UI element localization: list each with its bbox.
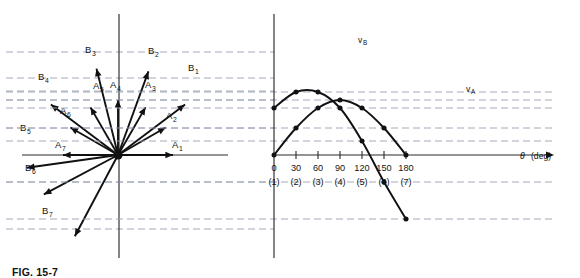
x-tick-label-150: 150 [376, 163, 391, 173]
data-point-v-a-2 [293, 126, 298, 131]
x-axis-unit-label: (deg) [531, 151, 551, 161]
data-point-v-a-5 [359, 106, 364, 111]
x-tick-label-60: 60 [313, 163, 323, 173]
point-number-7: (7) [400, 177, 411, 187]
data-point-v-b-1 [272, 106, 277, 111]
data-point-v-b-2 [293, 90, 298, 95]
point-number-2: (2) [290, 177, 301, 187]
x-tick-label-120: 120 [354, 163, 369, 173]
vector-label-b-7: B7 [42, 205, 53, 218]
curve-label-v-b: vB [358, 35, 367, 46]
point-number-6: (6) [378, 177, 389, 187]
vector-arrowhead-a-4 [115, 100, 122, 108]
data-point-v-a-7 [403, 153, 408, 158]
data-point-v-b-7 [403, 217, 408, 222]
vector-label-b-3: B3 [85, 44, 96, 57]
vector-label-a-6: A6 [60, 105, 71, 118]
x-axis-tick-labels: 0(1)30(2)60(3)90(4)120(5)150(6)180(7) [268, 163, 413, 187]
x-tick-label-30: 30 [291, 163, 301, 173]
vector-label-a-5: A5 [93, 80, 104, 93]
figure-canvas: A1A2A3A4A5A6A7B1B2B3B4B5B6B7 vAvB 0(1)30… [0, 0, 580, 278]
x-axis-title-theta: θ [520, 151, 525, 161]
x-tick-label-0: 0 [271, 163, 276, 173]
x-tick-label-180: 180 [398, 163, 413, 173]
vector-phasor-diagram: A1A2A3A4A5A6A7B1B2B3B4B5B6B7 [6, 14, 274, 258]
figure-caption: FIG. 15-7 [12, 266, 58, 278]
vector-label-b-4: B4 [38, 71, 49, 84]
point-number-3: (3) [312, 177, 323, 187]
figure-root: A1A2A3A4A5A6A7B1B2B3B4B5B6B7 vAvB 0(1)30… [0, 0, 580, 278]
vector-label-b-1: B1 [188, 62, 199, 75]
data-point-v-a-1 [272, 153, 277, 158]
point-number-5: (5) [356, 177, 367, 187]
curve-label-group: vAvB [358, 35, 476, 95]
data-point-v-b-3 [315, 90, 320, 95]
vector-arrowhead-a-7 [63, 152, 71, 159]
vector-label-b-2: B2 [148, 45, 159, 58]
point-number-4: (4) [334, 177, 345, 187]
point-number-1: (1) [268, 177, 279, 187]
vector-arrowhead-a-1 [165, 152, 173, 159]
vector-label-a-3: A3 [145, 79, 156, 92]
data-point-v-b-4 [337, 106, 342, 111]
vector-origin-hub [113, 150, 122, 159]
x-tick-label-90: 90 [335, 163, 345, 173]
data-point-v-a-3 [315, 106, 320, 111]
vector-label-b-6: B6 [25, 162, 36, 175]
curve-label-v-a: vA [466, 84, 476, 95]
data-point-v-a-4 [337, 98, 342, 103]
data-point-v-a-6 [381, 126, 386, 131]
data-point-v-b-5 [359, 139, 364, 144]
